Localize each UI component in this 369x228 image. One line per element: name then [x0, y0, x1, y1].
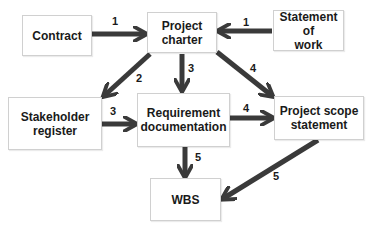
edge-charter-stakeholder	[105, 54, 150, 95]
node-requirement-documentation: Requirement documentation	[137, 93, 230, 147]
edge-label: 4	[243, 102, 250, 114]
node-label: Contract	[32, 29, 81, 43]
node-label: Statement of work	[274, 10, 343, 52]
node-project-charter: Project charter	[147, 12, 217, 53]
edge-charter-scope	[217, 52, 271, 95]
edge-label: 4	[250, 62, 257, 74]
node-contract: Contract	[22, 15, 92, 56]
edge-label: 3	[188, 62, 194, 74]
node-wbs: WBS	[150, 178, 221, 221]
node-label: Project charter	[162, 19, 203, 47]
edge-label: 1	[112, 15, 118, 27]
edge-label: 3	[110, 105, 116, 117]
edge-label: 1	[243, 16, 249, 28]
node-label: WBS	[172, 193, 200, 207]
node-stakeholder-register: Stakeholder register	[8, 97, 102, 150]
node-statement-of-work: Statement of work	[273, 10, 344, 51]
node-label: Project scope statement	[280, 104, 359, 132]
edge-label: 5	[195, 151, 201, 163]
edge-label: 2	[136, 72, 142, 84]
node-label: Requirement documentation	[141, 106, 227, 134]
node-project-scope-statement: Project scope statement	[274, 96, 364, 140]
edge-label: 5	[273, 170, 279, 182]
edge-scope-wbs	[224, 140, 318, 198]
node-label: Stakeholder register	[21, 110, 90, 138]
